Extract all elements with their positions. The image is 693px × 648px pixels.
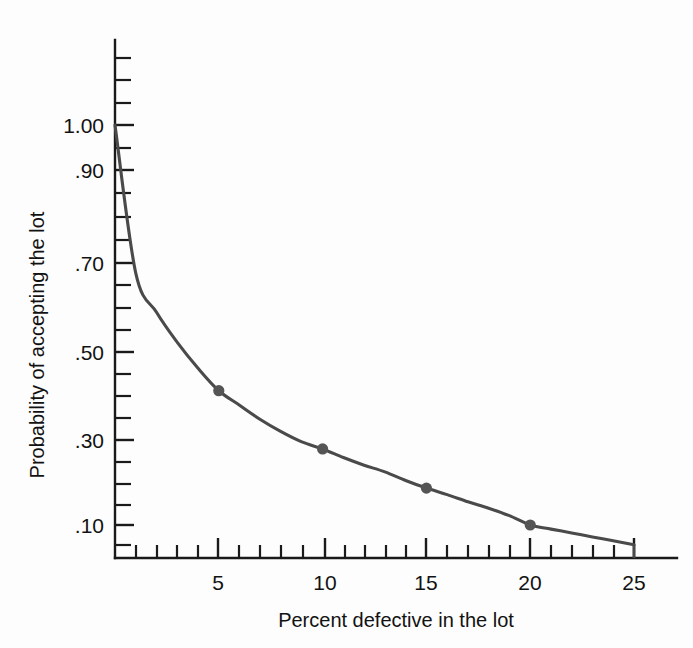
y-tick-label-0-10: .10 bbox=[75, 514, 104, 537]
oc-curve-chart: 1.00 .90 .70 .50 .30 .10 bbox=[0, 0, 693, 648]
data-point-marker bbox=[213, 385, 224, 396]
y-tick-label-0-90: .90 bbox=[75, 159, 104, 182]
x-tick-label-10: 10 bbox=[313, 571, 336, 594]
data-point-marker bbox=[525, 519, 536, 530]
chart-background bbox=[0, 0, 693, 648]
x-axis-title: Percent defective in the lot bbox=[278, 609, 514, 631]
y-tick-label-0-50: .50 bbox=[75, 341, 104, 364]
x-tick-label-15: 15 bbox=[414, 571, 437, 594]
y-axis-title: Probability of accepting the lot bbox=[26, 211, 48, 478]
y-tick-label-1-00: 1.00 bbox=[63, 114, 104, 137]
x-tick-label-5: 5 bbox=[212, 571, 224, 594]
y-tick-label-0-70: .70 bbox=[75, 252, 104, 275]
data-point-marker bbox=[421, 482, 432, 493]
data-point-marker bbox=[317, 443, 328, 454]
y-tick-label-0-30: .30 bbox=[75, 429, 104, 452]
x-tick-label-20: 20 bbox=[518, 571, 541, 594]
chart-figure: 1.00 .90 .70 .50 .30 .10 bbox=[0, 0, 693, 648]
x-tick-label-25: 25 bbox=[622, 571, 645, 594]
